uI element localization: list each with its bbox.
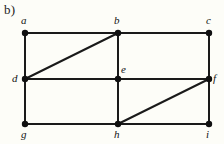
vertex-label-g: g <box>21 129 27 140</box>
graph-vertex-b <box>115 30 121 36</box>
graph-vertex-i <box>206 121 212 127</box>
graph-canvas <box>0 0 224 144</box>
figure-container: b) abcdefghi <box>0 0 224 144</box>
graph-vertex-g <box>22 121 28 127</box>
graph-vertex-a <box>22 30 28 36</box>
vertex-label-b: b <box>114 15 120 26</box>
vertex-label-f: f <box>213 73 216 84</box>
vertex-label-i: i <box>206 129 209 140</box>
vertex-label-a: a <box>21 15 27 26</box>
vertex-label-c: c <box>206 15 211 26</box>
graph-vertex-h <box>115 121 121 127</box>
graph-vertex-d <box>22 76 28 82</box>
graph-vertex-f <box>206 76 212 82</box>
vertex-label-h: h <box>114 129 120 140</box>
graph-edge-h-f <box>118 79 209 124</box>
graph-vertex-e <box>115 76 121 82</box>
vertex-label-e: e <box>121 64 126 75</box>
vertex-label-d: d <box>12 73 18 84</box>
graph-vertex-c <box>206 30 212 36</box>
graph-edge-d-b <box>25 33 118 79</box>
